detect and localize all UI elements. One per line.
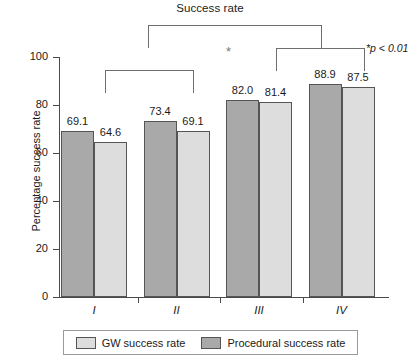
y-tick-label: 40 xyxy=(0,194,48,206)
bar-value-label: 81.4 xyxy=(254,86,298,98)
legend-label: Procedural success rate xyxy=(227,337,345,349)
bar-IV-series1 xyxy=(309,84,342,297)
bar-value-label: 87.5 xyxy=(336,71,380,83)
y-tick-label: 60 xyxy=(0,146,48,158)
bar-II-series2 xyxy=(177,131,210,297)
bar-III-series2 xyxy=(259,102,292,297)
y-tick-label: 0 xyxy=(0,290,48,302)
bar-I-series2 xyxy=(94,142,127,297)
significance-bracket-outer xyxy=(148,25,322,48)
legend-item: GW success rate xyxy=(76,337,186,349)
bar-II-series1 xyxy=(144,121,177,297)
y-tick-mark xyxy=(53,297,59,298)
x-tick-label-I: I xyxy=(74,304,114,316)
x-tick-label-III: III xyxy=(239,304,279,316)
chart-figure: Success rate * *p < 0.01 Percentage succ… xyxy=(0,0,420,361)
x-tick-label-IV: IV xyxy=(322,304,362,316)
bar-value-label: 69.1 xyxy=(171,115,215,127)
x-tick-mark xyxy=(220,298,221,303)
bar-I-series1 xyxy=(61,131,94,297)
chart-title: Success rate xyxy=(0,2,420,14)
x-tick-label-II: II xyxy=(157,304,197,316)
chart-legend: GW success rateProcedural success rate xyxy=(63,330,358,355)
plot-area: 69.164.673.469.182.081.488.987.5 xyxy=(59,57,389,297)
bar-IV-series2 xyxy=(342,87,375,297)
y-tick-label: 80 xyxy=(0,98,48,110)
y-tick-label: 20 xyxy=(0,242,48,254)
y-tick-label: 100 xyxy=(0,50,48,62)
legend-swatch-icon xyxy=(76,337,96,349)
x-tick-mark xyxy=(138,298,139,303)
bar-value-label: 64.6 xyxy=(89,126,133,138)
legend-item: Procedural success rate xyxy=(201,337,345,349)
x-axis-line xyxy=(59,297,389,298)
x-tick-mark xyxy=(303,298,304,303)
legend-label: GW success rate xyxy=(102,337,186,349)
p-value-note: *p < 0.01 xyxy=(366,42,408,54)
legend-swatch-icon xyxy=(201,337,221,349)
bar-III-series1 xyxy=(226,100,259,297)
